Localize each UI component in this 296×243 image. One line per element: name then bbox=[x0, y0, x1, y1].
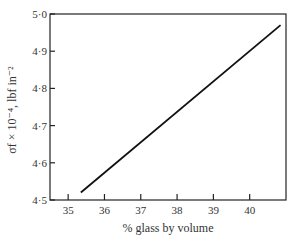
x-tick-label: 36 bbox=[99, 204, 111, 216]
y-tick-label: 5·0 bbox=[32, 8, 47, 20]
y-tick-label: 4·6 bbox=[32, 157, 47, 169]
x-axis: 353637383940 bbox=[63, 194, 256, 216]
x-tick-label: 40 bbox=[244, 204, 256, 216]
y-axis-label: σf × 10⁻⁴, lbf in⁻² bbox=[5, 66, 19, 154]
x-tick-label: 39 bbox=[208, 204, 220, 216]
x-axis-label: % glass by volume bbox=[123, 221, 214, 235]
x-tick-label: 35 bbox=[63, 204, 75, 216]
data-series bbox=[81, 25, 281, 192]
x-tick-label: 38 bbox=[172, 204, 184, 216]
series-line bbox=[81, 25, 281, 192]
y-tick-label: 4·9 bbox=[32, 45, 47, 57]
y-tick-label: 4·7 bbox=[32, 120, 47, 132]
y-tick-label: 4·8 bbox=[32, 82, 47, 94]
chart: 4·54·64·74·84·95·0 353637383940 % glass … bbox=[0, 0, 296, 243]
x-tick-label: 37 bbox=[135, 204, 147, 216]
plot-frame bbox=[50, 14, 286, 200]
y-tick-label: 4·5 bbox=[32, 194, 47, 206]
y-axis: 4·54·64·74·84·95·0 bbox=[32, 8, 55, 206]
